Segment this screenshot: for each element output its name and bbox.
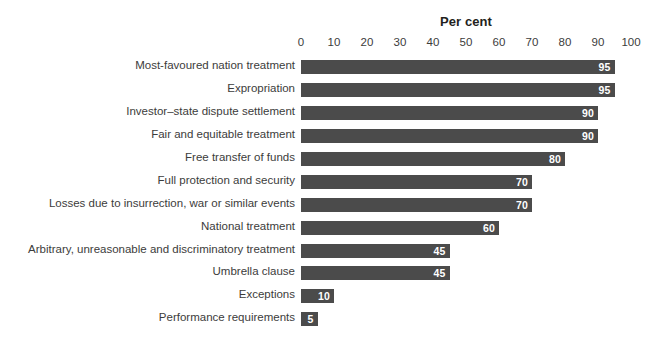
bar-value-label: 90 [582, 129, 594, 143]
bar-track: 60 [301, 221, 631, 235]
bar-category-label: Exceptions [5, 287, 295, 302]
bar-track: 45 [301, 244, 631, 258]
bar-value-label: 10 [318, 289, 330, 303]
bar: 45 [301, 244, 450, 258]
bar-value-label: 60 [483, 221, 495, 235]
bar-category-label: Full protection and security [5, 173, 295, 188]
bar-track: 45 [301, 266, 631, 280]
bar-category-label: National treatment [5, 219, 295, 234]
x-axis-tick: 100 [611, 35, 651, 49]
bar-value-label: 45 [433, 244, 445, 258]
bar-track: 5 [301, 312, 631, 326]
bar-row: Exceptions10 [0, 287, 664, 310]
bar-track: 10 [301, 289, 631, 303]
bar-category-label: Expropriation [5, 81, 295, 96]
bar: 10 [301, 289, 334, 303]
bar-value-label: 70 [516, 175, 528, 189]
bar-row: Free transfer of funds80 [0, 150, 664, 173]
bar-value-label: 5 [307, 312, 313, 326]
chart-title: Per cent [301, 14, 631, 29]
bar-track: 90 [301, 129, 631, 143]
x-axis: 0102030405060708090100 [301, 35, 631, 49]
bar: 95 [301, 60, 615, 74]
bar-track: 90 [301, 106, 631, 120]
bar-value-label: 70 [516, 198, 528, 212]
bar-value-label: 80 [549, 152, 561, 166]
bar-category-label: Investor–state dispute settlement [5, 104, 295, 119]
bar-category-label: Umbrella clause [5, 264, 295, 279]
bar-category-label: Performance requirements [5, 310, 295, 325]
bar-track: 80 [301, 152, 631, 166]
bar: 90 [301, 129, 598, 143]
bar-row: Performance requirements5 [0, 310, 664, 333]
bar: 95 [301, 83, 615, 97]
bar-row: Full protection and security70 [0, 173, 664, 196]
bar-track: 95 [301, 83, 631, 97]
bar-value-label: 95 [598, 60, 610, 74]
bar-category-label: Fair and equitable treatment [5, 127, 295, 142]
bar: 70 [301, 175, 532, 189]
bar: 90 [301, 106, 598, 120]
bar-category-label: Free transfer of funds [5, 150, 295, 165]
bar-row: Expropriation95 [0, 81, 664, 104]
bar-row: Umbrella clause45 [0, 264, 664, 287]
bar-category-label: Most-favoured nation treatment [5, 58, 295, 73]
bar-category-label: Losses due to insurrection, war or simil… [5, 196, 295, 211]
bar-track: 70 [301, 198, 631, 212]
bar-row: Most-favoured nation treatment95 [0, 58, 664, 81]
bar-category-label: Arbitrary, unreasonable and discriminato… [5, 242, 295, 257]
bar: 5 [301, 312, 318, 326]
bar-track: 70 [301, 175, 631, 189]
bar-row: Arbitrary, unreasonable and discriminato… [0, 242, 664, 265]
bar-track: 95 [301, 60, 631, 74]
bar-value-label: 95 [598, 83, 610, 97]
bar-row: Investor–state dispute settlement90 [0, 104, 664, 127]
bar-chart: Per cent 0102030405060708090100 Most-fav… [0, 0, 664, 344]
bar-row: Fair and equitable treatment90 [0, 127, 664, 150]
bar: 60 [301, 221, 499, 235]
bar: 80 [301, 152, 565, 166]
bar-value-label: 90 [582, 106, 594, 120]
bar-value-label: 45 [433, 266, 445, 280]
bar-row: National treatment60 [0, 219, 664, 242]
bar: 45 [301, 266, 450, 280]
bar-row: Losses due to insurrection, war or simil… [0, 196, 664, 219]
bar: 70 [301, 198, 532, 212]
bar-rows: Most-favoured nation treatment95Expropri… [0, 58, 664, 333]
